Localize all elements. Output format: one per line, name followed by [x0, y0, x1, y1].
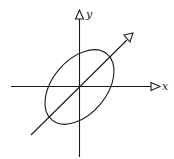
- y-axis-label: y: [85, 8, 93, 21]
- x-axis-arrowhead-icon: [151, 83, 160, 91]
- diagram-canvas: y x: [0, 0, 174, 159]
- diagonal-axis-arrowhead-icon: [124, 33, 133, 42]
- y-axis-arrowhead-icon: [76, 10, 84, 19]
- x-axis-label: x: [162, 80, 169, 93]
